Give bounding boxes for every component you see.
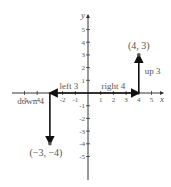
move-label: up 3: [145, 66, 161, 76]
y-tick-label: -1: [79, 102, 85, 110]
y-axis-label: y: [80, 10, 85, 20]
y-tick-label: -4: [79, 140, 85, 148]
x-tick-label: 4: [137, 96, 141, 104]
y-tick-label: 5: [82, 26, 86, 34]
y-tick-label: 2: [82, 64, 86, 72]
move-label: right 4: [102, 81, 126, 91]
y-tick-label: -2: [79, 115, 85, 123]
y-tick-label: -3: [79, 128, 85, 136]
x-tick-label: 2: [112, 96, 116, 104]
y-tick-label: -5: [79, 153, 85, 161]
y-tick-label: 3: [82, 51, 86, 59]
x-tick-label: 1: [99, 96, 103, 104]
x-tick-label: -2: [60, 96, 66, 104]
plotted-point: [48, 142, 52, 146]
point-label: (4, 3): [128, 40, 150, 52]
point-label: (−3, −4): [29, 147, 62, 159]
x-tick-label: 5: [150, 96, 154, 104]
x-tick-label: -1: [72, 96, 78, 104]
y-tick-label: 4: [82, 39, 86, 47]
move-label: left 3: [60, 81, 79, 91]
y-tick-label: 1: [82, 77, 86, 85]
x-axis-label: x: [159, 94, 164, 104]
coordinate-plane: x y -5-4-2-11234554321-1-2-3-4-5 right 4…: [0, 0, 171, 187]
move-label: down 4: [17, 96, 44, 106]
x-tick-label: 3: [124, 96, 128, 104]
plotted-point: [137, 53, 141, 57]
